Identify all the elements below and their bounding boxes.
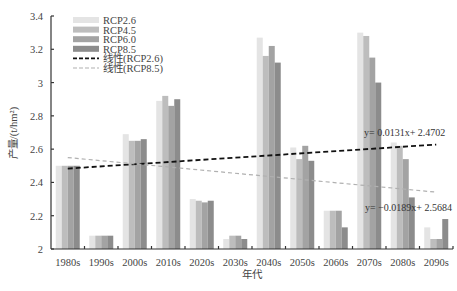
bar-rcp60-2000s — [135, 141, 141, 249]
y-tick-label: 3.4 — [30, 11, 44, 22]
bar-rcp60-1980s — [68, 166, 74, 249]
x-tick-label: 2010s — [156, 257, 181, 268]
bar-rcp45-2080s — [397, 146, 403, 249]
bar-rcp45-2010s — [162, 96, 168, 249]
legend-label: 线性(RCP8.5) — [103, 62, 163, 75]
x-tick-label: 1990s — [89, 257, 114, 268]
x-tick-label: 2080s — [390, 257, 415, 268]
legend-swatch — [73, 36, 99, 42]
bar-rcp45-2040s — [263, 56, 269, 249]
bar-rcp45-2000s — [129, 141, 135, 249]
x-tick-label: 2040s — [256, 257, 281, 268]
bar-rcp85-2050s — [308, 161, 314, 249]
bar-rcp60-2010s — [168, 106, 174, 249]
bar-rcp26-2090s — [424, 227, 430, 249]
y-tick-label: 3 — [38, 78, 43, 89]
y-tick-label: 2.2 — [30, 211, 43, 222]
bar-rcp45-2050s — [296, 159, 302, 249]
bar-rcp45-2090s — [430, 239, 436, 249]
bar-rcp60-2070s — [369, 58, 375, 249]
legend-swatch — [73, 46, 99, 52]
bar-rcp60-2030s — [235, 236, 241, 249]
y-tick-label: 2.6 — [30, 144, 43, 155]
x-tick-label: 2020s — [189, 257, 214, 268]
x-tick-label: 2000s — [122, 257, 147, 268]
bar-rcp85-2010s — [174, 99, 180, 249]
bar-rcp85-1990s — [107, 236, 113, 249]
bar-rcp26-2040s — [257, 38, 263, 249]
x-tick-label: 2050s — [290, 257, 315, 268]
bar-rcp45-1990s — [95, 236, 101, 249]
bar-rcp60-2020s — [202, 202, 208, 249]
legend-swatch — [73, 27, 99, 33]
legend-swatch — [73, 17, 99, 23]
bar-rcp45-2060s — [330, 211, 336, 249]
bar-rcp26-1990s — [89, 236, 95, 249]
bar-rcp26-2060s — [324, 211, 330, 249]
bar-rcp85-2000s — [141, 139, 147, 249]
bar-rcp26-2070s — [357, 33, 363, 249]
y-axis-title: 产量/(t/hm²) — [7, 106, 20, 159]
bar-rcp26-2020s — [190, 199, 196, 249]
x-axis-title: 年代 — [242, 268, 263, 280]
bar-rcp26-2050s — [290, 147, 296, 249]
bar-rcp45-1980s — [62, 166, 68, 249]
trend-equation-rcp85: y= −0.0189x+ 2.5684 — [365, 202, 452, 213]
trend-equation-rcp26: y= 0.0131x+ 2.4702 — [364, 127, 445, 138]
bar-rcp85-2070s — [375, 83, 381, 249]
bar-rcp85-2030s — [241, 239, 247, 249]
bar-rcp85-2090s — [442, 219, 448, 249]
bar-rcp26-2080s — [391, 142, 397, 249]
bar-rcp45-2070s — [363, 36, 369, 249]
bar-rcp85-1980s — [74, 166, 80, 249]
bar-rcp60-1990s — [101, 236, 107, 249]
x-tick-label: 2070s — [357, 257, 382, 268]
bar-rcp85-2060s — [342, 227, 348, 249]
bar-rcp26-1980s — [56, 166, 62, 249]
bar-rcp60-2090s — [436, 239, 442, 249]
bar-rcp26-2010s — [156, 101, 162, 249]
x-tick-label: 1980s — [55, 257, 80, 268]
y-tick-label: 2.8 — [30, 111, 43, 122]
legend: RCP2.6RCP4.5RCP6.0RCP8.5线性(RCP2.6)线性(RCP… — [73, 15, 163, 75]
x-tick-label: 2030s — [223, 257, 248, 268]
bar-rcp60-2060s — [336, 211, 342, 249]
bar-rcp60-2040s — [269, 46, 275, 249]
bar-rcp45-2020s — [196, 201, 202, 249]
bar-rcp26-2030s — [223, 239, 229, 249]
bar-rcp85-2020s — [208, 201, 214, 249]
y-tick-label: 2 — [38, 244, 43, 255]
y-tick-label: 2.4 — [30, 177, 44, 188]
x-tick-label: 2060s — [323, 257, 348, 268]
bar-rcp60-2050s — [302, 146, 308, 249]
x-tick-label: 2090s — [424, 257, 449, 268]
y-tick-labels: 22.22.42.62.833.23.4 — [30, 11, 54, 255]
bar-rcp26-2000s — [123, 134, 129, 249]
bar-rcp45-2030s — [229, 236, 235, 249]
yield-bar-chart: 22.22.42.62.833.23.4 1980s1990s2000s2010… — [0, 0, 457, 291]
y-tick-label: 3.2 — [30, 44, 43, 55]
